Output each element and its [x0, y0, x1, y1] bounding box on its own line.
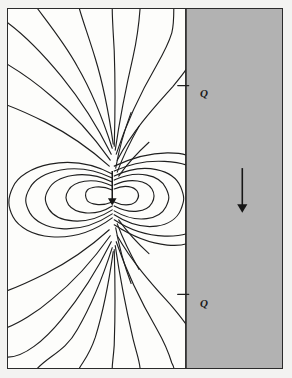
vacuum-region	[8, 9, 187, 368]
field-line-plot	[8, 9, 282, 368]
figure-root: Q Q	[0, 0, 292, 378]
induced-charge-label-top: Q	[200, 88, 208, 99]
figure-frame: Q Q	[7, 8, 283, 369]
conducting-half-space	[186, 9, 282, 368]
induced-charge-label-bottom: Q	[200, 298, 208, 309]
